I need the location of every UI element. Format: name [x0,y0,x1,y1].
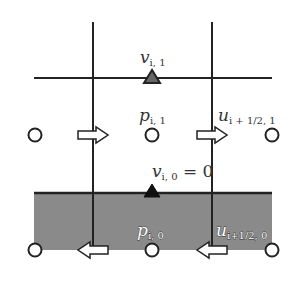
wall-region [34,193,272,250]
v-top-triangle-icon [144,70,160,83]
ghost-pressure-node-icon [266,244,279,257]
ghost-pressure-node-icon [29,244,42,257]
pressure-node-icon [266,129,279,142]
label-p-top: pi, 1 [139,105,166,126]
label-v-top: vi, 1 [140,47,166,68]
ghost-pressure-node-icon [146,244,159,257]
label-v-wall: vi, 0 = 0 [152,161,213,182]
v-wall-triangle-icon [144,184,160,197]
label-u-top: ui + 1/2, 1 [218,105,276,126]
pressure-node-icon [29,129,42,142]
pressure-node-icon [146,129,159,142]
staggered-grid-diagram: vi, 1 pi, 1 ui + 1/2, 1 vi, 0 = 0 pi, 0 … [0,0,300,285]
